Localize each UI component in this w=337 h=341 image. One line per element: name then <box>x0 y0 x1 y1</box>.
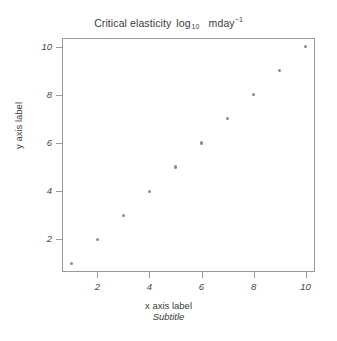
y-axis-tick <box>56 191 62 192</box>
x-axis-tick <box>254 272 255 278</box>
x-axis-tick-label: 10 <box>293 281 319 292</box>
y-axis-tick-label: 6 <box>26 137 52 148</box>
x-axis-tick <box>97 272 98 278</box>
plot-area <box>62 38 315 272</box>
chart-subtitle: Subtitle <box>0 311 337 322</box>
y-axis-tick-label: 2 <box>26 233 52 244</box>
x-axis-tick <box>149 272 150 278</box>
y-axis-tick <box>56 239 62 240</box>
y-axis-tick-label: 8 <box>26 89 52 100</box>
x-axis-tick <box>202 272 203 278</box>
chart-title-unit: mday <box>209 17 235 29</box>
y-axis-tick <box>56 95 62 96</box>
x-axis-label: x axis label <box>0 300 337 311</box>
y-axis-tick-label: 10 <box>26 41 52 52</box>
chart-title-log: log <box>176 17 190 29</box>
y-axis-tick <box>56 47 62 48</box>
x-axis-tick-label: 8 <box>241 281 267 292</box>
x-axis-tick-label: 2 <box>84 281 110 292</box>
y-axis-label: y axis label <box>13 86 24 166</box>
chart-title-unit-exponent: −1 <box>235 16 243 23</box>
chart-title-main: Critical elasticity <box>94 17 171 29</box>
y-axis-tick <box>56 143 62 144</box>
x-axis-tick-label: 4 <box>136 281 162 292</box>
chart-title-log-base: 10 <box>192 23 200 30</box>
x-axis-tick <box>306 272 307 278</box>
x-axis-tick-label: 6 <box>189 281 215 292</box>
chart-title: Critical elasticitylog10mday−1 <box>0 17 337 29</box>
y-axis-tick-label: 4 <box>26 185 52 196</box>
scatter-plot-figure: Critical elasticitylog10mday−1 246810246… <box>0 0 337 341</box>
